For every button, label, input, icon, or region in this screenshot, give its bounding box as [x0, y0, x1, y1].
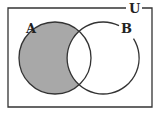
- universe-label: U: [129, 1, 141, 16]
- set-b-label: B: [121, 21, 132, 36]
- set-a-label: A: [25, 21, 37, 36]
- venn-svg: U A B: [0, 0, 159, 113]
- venn-diagram: U A B: [0, 0, 159, 113]
- shaded-region-a-only: [0, 0, 159, 113]
